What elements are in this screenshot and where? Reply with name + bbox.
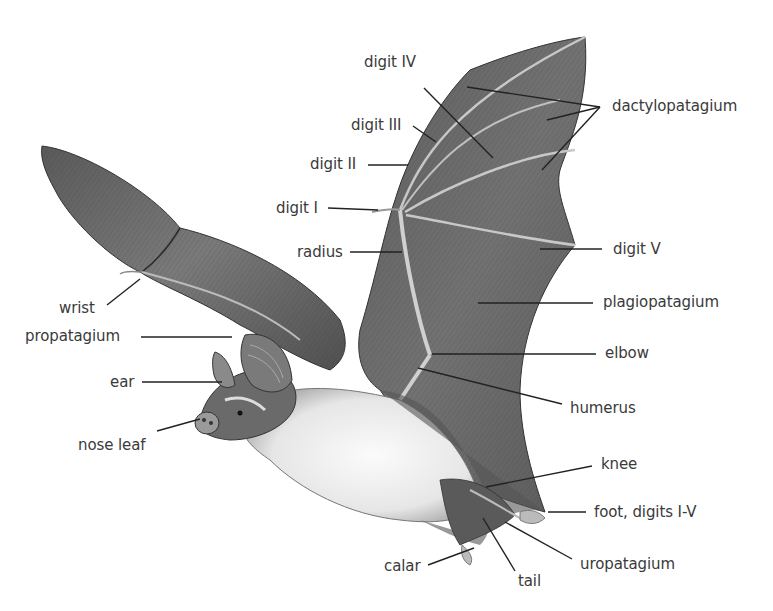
- label-digit-iii: digit III: [351, 116, 401, 134]
- leader-nose-leaf: [157, 419, 200, 431]
- label-nose-leaf: nose leaf: [78, 436, 145, 454]
- label-digit-v: digit V: [613, 240, 661, 258]
- label-tail: tail: [518, 572, 541, 590]
- label-wrist: wrist: [59, 299, 95, 317]
- leader-wrist: [107, 279, 140, 305]
- label-digit-i: digit I: [276, 199, 318, 217]
- label-propatagium: propatagium: [25, 327, 120, 345]
- label-humerus: humerus: [570, 399, 636, 417]
- label-knee: knee: [601, 455, 637, 473]
- label-calar: calar: [384, 557, 420, 575]
- label-foot-digits: foot, digits I-V: [594, 503, 697, 521]
- label-digit-iv: digit IV: [364, 53, 416, 71]
- bat-head: [195, 334, 296, 440]
- label-ear: ear: [110, 373, 134, 391]
- label-digit-ii: digit II: [310, 155, 356, 173]
- label-uropatagium: uropatagium: [580, 555, 675, 573]
- label-elbow: elbow: [605, 344, 649, 362]
- label-dactylopatagium: dactylopatagium: [612, 97, 737, 115]
- leader-digit-i: [328, 208, 378, 210]
- label-plagiopatagium: plagiopatagium: [603, 293, 719, 311]
- label-radius: radius: [297, 243, 343, 261]
- leader-uropatagium: [505, 522, 572, 559]
- bat-anatomy-diagram: digit IV digit III digit II digit I radi…: [0, 0, 773, 611]
